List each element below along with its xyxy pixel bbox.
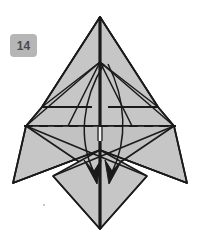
origami-step-figure: 14 xyxy=(0,0,200,251)
step-number-label: 14 xyxy=(17,40,30,52)
step-number-badge: 14 xyxy=(10,34,37,57)
scan-speck xyxy=(43,204,45,206)
